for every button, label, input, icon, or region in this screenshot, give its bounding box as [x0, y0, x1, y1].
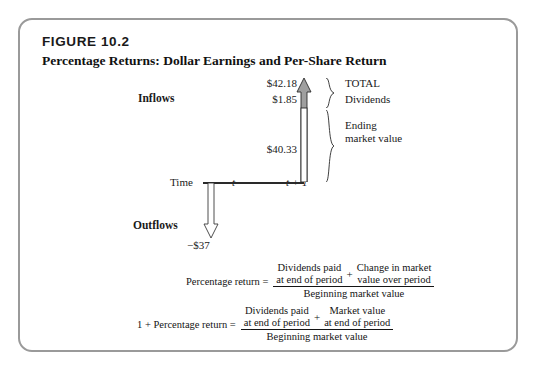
formula-lhs: Percentage return =: [186, 276, 273, 287]
figure-number: FIGURE 10.2: [42, 34, 130, 49]
numerator-right-line2: value over period: [357, 274, 432, 286]
formula-numerator: Dividends paid at end of period + Change…: [273, 262, 434, 286]
dividends-brace-icon: [325, 78, 337, 108]
numerator-left-term: Dividends paid at end of period: [276, 262, 342, 285]
inflow-arrow-icon: [296, 78, 312, 182]
formula-operator: +: [310, 311, 324, 323]
dividends-value-label: $1.85: [249, 93, 297, 105]
formula-denominator: Beginning market value: [273, 287, 434, 300]
outflow-arrow-icon: [203, 183, 219, 238]
time-axis-label: Time: [170, 176, 193, 188]
numerator-left-line2: at end of period: [244, 317, 310, 329]
numerator-left-line1: Dividends paid: [244, 305, 310, 317]
numerator-right-term: Market value at end of period: [324, 305, 390, 328]
inflows-label: Inflows: [138, 92, 174, 104]
outflow-value-label: −$37: [187, 239, 210, 251]
total-value-label: $42.18: [249, 77, 297, 89]
outflows-label: Outflows: [133, 219, 178, 231]
ending-market-value-label: $40.33: [240, 143, 297, 155]
numerator-right-line1: Change in market: [357, 262, 432, 274]
formula-fraction: Dividends paid at end of period + Change…: [273, 262, 434, 300]
numerator-left-term: Dividends paid at end of period: [244, 305, 310, 328]
formula-lhs: 1 + Percentage return =: [137, 319, 241, 330]
formula-operator: +: [343, 268, 357, 280]
formula-numerator: Dividends paid at end of period + Market…: [241, 305, 394, 329]
dividends-brace-label: Dividends: [345, 93, 390, 105]
ending-value-brace-icon: [325, 110, 337, 182]
formula-fraction: Dividends paid at end of period + Market…: [241, 305, 394, 343]
percentage-return-formula: Percentage return = Dividends paid at en…: [186, 262, 434, 300]
numerator-right-line1: Market value: [324, 305, 390, 317]
total-brace-label: TOTAL: [345, 77, 380, 89]
one-plus-percentage-return-formula: 1 + Percentage return = Dividends paid a…: [137, 305, 393, 343]
ending-value-brace-label: Ending market value: [345, 119, 405, 145]
figure-container: FIGURE 10.2 Percentage Returns: Dollar E…: [0, 0, 540, 373]
numerator-left-line2: at end of period: [276, 274, 342, 286]
formula-denominator: Beginning market value: [241, 330, 394, 343]
numerator-left-line1: Dividends paid: [276, 262, 342, 274]
figure-title: Percentage Returns: Dollar Earnings and …: [42, 53, 386, 69]
numerator-right-term: Change in market value over period: [357, 262, 432, 285]
numerator-right-line2: at end of period: [324, 317, 390, 329]
